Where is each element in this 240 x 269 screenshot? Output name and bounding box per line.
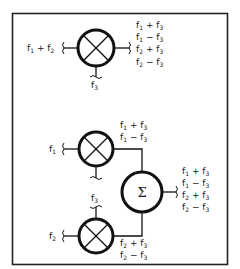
sigma-symbol: Σ	[137, 185, 146, 200]
mixer-diagram: f1 + f2 f3 f1 + f3 f1 − f3 f2 + f3 f2 − …	[0, 0, 240, 269]
